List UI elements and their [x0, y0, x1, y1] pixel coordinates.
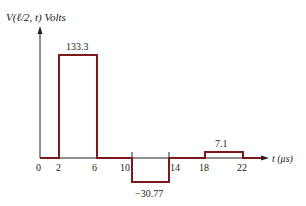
tick-label-14: 14 — [170, 162, 180, 173]
pulse-label-3: 7.1 — [215, 138, 228, 149]
tick-label-6: 6 — [92, 162, 97, 173]
tick-label-18: 18 — [199, 162, 209, 173]
tick-label-2: 2 — [56, 162, 61, 173]
y-axis-label: V(ℓ/2, t) Volts — [6, 11, 66, 24]
pulse-label-1: 133.3 — [66, 41, 89, 52]
voltage-waveform — [40, 55, 262, 182]
y-axis-arrow-icon — [38, 26, 43, 34]
tick-label-10: 10 — [120, 162, 130, 173]
x-axis-arrow-icon — [261, 156, 269, 161]
x-axis-label: t (μs) — [272, 153, 294, 165]
pulse-label-2: −30.77 — [135, 188, 163, 199]
pulse-chart: V(ℓ/2, t) Volts 0 2 6 10 14 18 22 t (μs)… — [0, 0, 306, 206]
tick-label-22: 22 — [237, 162, 247, 173]
tick-label-0: 0 — [36, 162, 41, 173]
